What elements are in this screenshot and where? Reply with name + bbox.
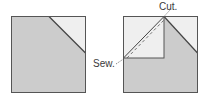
sew-label-group: Sew.: [93, 58, 125, 69]
quilting-diagram: Cut. Sew.: [0, 0, 204, 103]
right-square: [124, 17, 198, 93]
cut-label-group: Cut.: [159, 1, 177, 17]
cut-label: Cut.: [159, 1, 177, 12]
sew-label: Sew.: [93, 58, 115, 69]
left-square: [12, 17, 86, 93]
